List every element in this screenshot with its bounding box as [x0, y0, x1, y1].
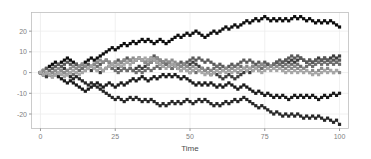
- plot-container: 0255075100 -20-1001020 Time: [0, 0, 371, 159]
- x-axis-title: Time: [181, 144, 199, 153]
- x-tick-label: 50: [186, 133, 194, 140]
- y-tick-label: 0: [23, 69, 27, 76]
- y-tick-label: -10: [17, 90, 27, 97]
- y-tick-label: -20: [17, 111, 27, 118]
- x-tick-label: 25: [111, 133, 119, 140]
- chart-root: 0255075100 -20-1001020 Time: [0, 0, 371, 159]
- x-tick-label: 75: [261, 133, 269, 140]
- y-tick-label: 10: [19, 48, 27, 55]
- random-walk-chart: 0255075100 -20-1001020 Time: [0, 0, 371, 159]
- x-tick-label: 0: [39, 133, 43, 140]
- x-tick-label: 100: [334, 133, 346, 140]
- y-tick-label: 20: [19, 28, 27, 35]
